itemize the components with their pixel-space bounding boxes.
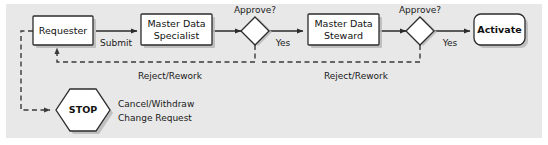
edge-label-yes-2: Yes [442, 38, 458, 48]
node-label-steward-line1: Master Data [314, 18, 372, 29]
edge-yes-1: Yes [269, 31, 303, 48]
edge-label-cancel-withdraw-line2: Change Request [118, 113, 192, 123]
edge-reject-rework-1: Reject/Rework [57, 45, 255, 81]
edge-label-yes-1: Yes [275, 38, 291, 48]
node-activate[interactable]: Activate [474, 14, 528, 48]
node-requester[interactable]: Requester [33, 16, 96, 48]
node-decision-approve-1[interactable]: Approve? [234, 5, 276, 47]
edge-submit: Submit [96, 31, 137, 48]
node-stop[interactable]: STOP [56, 89, 113, 134]
node-label-requester: Requester [39, 25, 87, 36]
node-label-decision-1: Approve? [234, 5, 276, 15]
edge-label-reject-rework-2: Reject/Rework [324, 71, 389, 81]
node-label-stop: STOP [69, 104, 97, 115]
node-master-data-steward[interactable]: Master Data Steward [308, 14, 382, 48]
edge-label-reject-rework-1: Reject/Rework [138, 71, 203, 81]
node-master-data-specialist[interactable]: Master Data Specialist [141, 14, 215, 48]
node-label-activate: Activate [477, 24, 521, 35]
edge-reject-rework-2: Reject/Rework [262, 45, 420, 81]
node-label-specialist-line1: Master Data [147, 18, 205, 29]
flowchart-canvas: Submit Yes Yes Reject/Rework Rej [0, 0, 548, 145]
edge-yes-2: Yes [434, 31, 470, 48]
node-decision-approve-2[interactable]: Approve? [399, 5, 441, 47]
node-label-steward-line2: Steward [324, 30, 363, 41]
workflow-diagram: Submit Yes Yes Reject/Rework Rej [0, 0, 548, 145]
edge-label-cancel-withdraw-line1: Cancel/Withdraw [118, 99, 194, 109]
node-label-decision-2: Approve? [399, 5, 441, 15]
node-label-specialist-line2: Specialist [154, 30, 200, 41]
edge-label-submit: Submit [100, 38, 132, 48]
